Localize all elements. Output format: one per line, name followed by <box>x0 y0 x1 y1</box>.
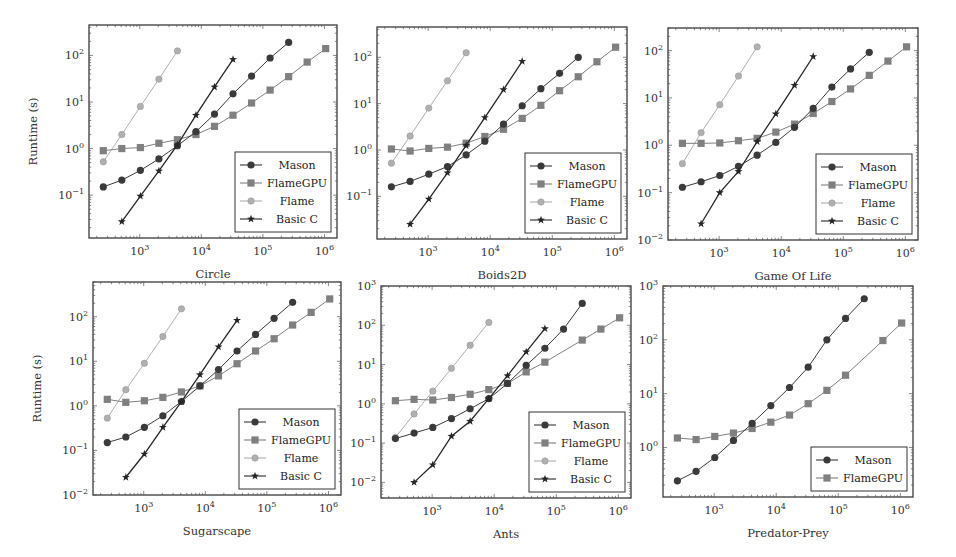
square-marker <box>786 411 793 418</box>
legend-label: Flame <box>861 197 896 210</box>
circle-marker <box>141 424 148 431</box>
circle-marker <box>429 424 436 431</box>
square-marker <box>674 434 681 441</box>
y-tick-label: 102 <box>353 49 372 64</box>
legend-label: Basic C <box>566 214 608 227</box>
x-axis-label: Predator-Prey <box>747 526 829 540</box>
chart-panel-ants: 10310410510610−210−1100101102103AntsMaso… <box>350 278 631 541</box>
chart-panel-game-of-life: 10310410510610−210−1100101102Game Of Lif… <box>637 28 918 283</box>
circle-marker <box>537 162 544 169</box>
circle-marker <box>842 315 849 322</box>
y-tick-label: 100 <box>69 398 88 413</box>
x-tick-label: 105 <box>834 245 853 260</box>
chart-panel-sugarscape: 10310410510610−210−1100101102SugarscapeR… <box>30 282 341 538</box>
circle-marker <box>697 178 704 185</box>
circle-marker <box>711 454 718 461</box>
circle-marker <box>749 420 756 427</box>
circle-marker <box>430 388 436 394</box>
circle-marker <box>426 105 432 111</box>
square-marker <box>485 386 492 393</box>
legend-label: Mason <box>572 419 609 432</box>
y-tick-label: 101 <box>357 357 376 372</box>
square-marker <box>137 144 144 151</box>
x-axis-label: Sugarscape <box>183 524 252 538</box>
circle-marker <box>810 105 817 112</box>
circle-marker <box>100 183 107 190</box>
x-tick-label: 103 <box>134 500 153 515</box>
square-marker <box>772 128 779 135</box>
y-tick-label: 102 <box>639 332 658 347</box>
legend-label: FlameGPU <box>271 434 331 447</box>
square-marker <box>823 474 830 481</box>
square-marker <box>100 147 107 154</box>
y-tick-label: 10−1 <box>637 185 663 200</box>
square-marker <box>537 180 544 187</box>
y-tick-label: 10−2 <box>350 474 376 489</box>
y-tick-label: 100 <box>644 137 663 152</box>
circle-marker <box>192 128 199 135</box>
circle-marker <box>828 163 835 170</box>
circle-marker <box>252 455 258 461</box>
square-marker <box>805 400 812 407</box>
circle-marker <box>229 90 236 97</box>
circle-marker <box>467 405 474 412</box>
circle-marker <box>730 437 737 444</box>
y-tick-label: 10−2 <box>62 487 88 502</box>
legend-label: Mason <box>854 454 891 467</box>
square-marker <box>155 140 162 147</box>
circle-marker <box>786 384 793 391</box>
square-marker <box>289 321 296 328</box>
circle-marker <box>679 184 686 191</box>
circle-marker <box>137 167 144 174</box>
square-marker <box>541 359 548 366</box>
x-tick-label: 106 <box>609 503 628 518</box>
circle-marker <box>410 429 417 436</box>
legend-label: Mason <box>859 161 896 174</box>
x-tick-label: 105 <box>253 243 272 258</box>
square-marker <box>118 145 125 152</box>
x-tick-label: 104 <box>767 502 786 517</box>
circle-marker <box>805 364 812 371</box>
y-tick-label: 101 <box>644 90 663 105</box>
square-marker <box>211 123 218 130</box>
square-marker <box>597 325 604 332</box>
legend-label: FlameGPU <box>843 472 903 485</box>
square-marker <box>828 181 835 188</box>
circle-marker <box>541 421 548 428</box>
square-marker <box>247 179 254 186</box>
circle-marker <box>467 342 473 348</box>
circle-marker <box>392 435 399 442</box>
square-marker <box>767 419 774 426</box>
circle-marker <box>159 412 166 419</box>
square-marker <box>898 319 905 326</box>
circle-marker <box>504 380 511 387</box>
circle-marker <box>211 110 218 117</box>
circle-marker <box>698 129 704 135</box>
square-marker <box>593 58 600 65</box>
circle-marker <box>448 365 454 371</box>
square-marker <box>229 112 236 119</box>
circle-marker <box>542 458 548 464</box>
y-tick-label: 102 <box>644 43 663 58</box>
x-tick-label: 103 <box>423 503 442 518</box>
y-tick-label: 102 <box>69 309 88 324</box>
x-tick-label: 106 <box>315 243 334 258</box>
legend-label: Basic C <box>570 473 612 486</box>
y-axis-label: Runtime (s) <box>26 97 40 165</box>
circle-marker <box>861 295 868 302</box>
circle-marker <box>754 152 761 159</box>
square-marker <box>847 85 854 92</box>
circle-marker <box>463 50 469 56</box>
square-marker <box>270 335 277 342</box>
circle-marker <box>463 151 470 158</box>
square-marker <box>304 58 311 65</box>
x-tick-label: 104 <box>192 243 211 258</box>
circle-marker <box>122 433 129 440</box>
circle-marker <box>556 70 563 77</box>
legend-label: Mason <box>282 416 319 429</box>
circle-marker <box>575 54 582 61</box>
circle-marker <box>847 65 854 72</box>
circle-marker <box>444 78 450 84</box>
circle-marker <box>123 387 129 393</box>
x-tick-label: 103 <box>419 244 438 259</box>
